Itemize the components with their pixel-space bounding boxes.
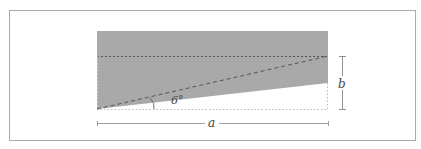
b-label: b bbox=[338, 77, 346, 91]
a-label: a bbox=[208, 116, 215, 130]
shaded-region bbox=[97, 31, 328, 109]
diagram-canvas: 6° b a bbox=[0, 0, 421, 149]
angle-label: 6° bbox=[171, 94, 184, 107]
